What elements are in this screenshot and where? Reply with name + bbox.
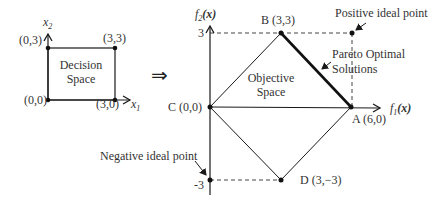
label-point-3-3: (3,3) xyxy=(103,31,126,45)
label-point-d: D (3,−3) xyxy=(300,173,341,187)
label-point-3-0: (3,0) xyxy=(96,97,119,111)
tick-minus-3: -3 xyxy=(194,178,204,192)
point-c xyxy=(208,105,213,110)
objective-space-title-line1: Objective xyxy=(248,71,295,85)
objective-space-title-line2: Space xyxy=(257,85,286,99)
positive-ideal-pointer-icon xyxy=(356,23,366,30)
decision-space: (0,0) (0,3) (3,3) (3,0) x1 x2 Decision S… xyxy=(19,15,140,113)
point-d xyxy=(279,178,284,183)
positive-ideal-label: Positive ideal point xyxy=(335,6,428,20)
mapping-arrow-icon: ⇒ xyxy=(151,63,168,87)
label-point-c: C (0,0) xyxy=(168,100,202,114)
label-point-0-3: (0,3) xyxy=(19,33,42,47)
f1-axis xyxy=(210,107,380,108)
label-point-a: A (6,0) xyxy=(352,112,386,126)
tick-3: 3 xyxy=(198,26,204,40)
decision-space-title-line2: Space xyxy=(67,72,96,86)
label-point-b: B (3,3) xyxy=(261,13,295,27)
pareto-pointer-icon xyxy=(322,62,331,69)
decision-y-axis-label: x2 xyxy=(42,15,52,31)
f1-axis-label: f1(x) xyxy=(390,101,411,117)
point-b xyxy=(279,31,284,36)
edge-d-a xyxy=(281,107,351,180)
decision-x-axis-label: x1 xyxy=(130,97,140,113)
pareto-label-line2: Solutions xyxy=(332,62,378,76)
diagram-canvas: (0,0) (0,3) (3,3) (3,0) x1 x2 Decision S… xyxy=(0,0,438,206)
objective-space: A (6,0) B (3,3) C (0,0) D (3,−3) 3 -3 f2… xyxy=(100,6,428,195)
edge-c-d xyxy=(210,107,281,180)
negative-ideal-label: Negative ideal point xyxy=(100,149,198,163)
pareto-label-line1: Pareto Optimal xyxy=(332,47,406,61)
point-3-3 xyxy=(113,46,118,51)
f2-axis-label: f2(x) xyxy=(195,7,216,23)
point-a xyxy=(349,105,354,110)
decision-space-title-line1: Decision xyxy=(60,58,103,72)
label-point-0-0: (0,0) xyxy=(24,93,47,107)
negative-ideal-pointer-icon xyxy=(195,161,206,175)
point-0-3 xyxy=(46,46,51,51)
negative-ideal-point xyxy=(208,178,213,183)
positive-ideal-point xyxy=(350,31,355,36)
